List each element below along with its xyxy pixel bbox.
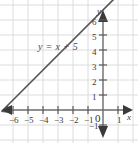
origin-label: 0 [95,113,101,124]
x-tick-label: −2 [69,116,79,125]
graph-figure: y = x + 5 −6 −5 −4 −3 −2 −1 1 6 5 4 3 2 … [0,0,138,143]
y-tick-label: 5 [92,33,97,42]
x-tick-label: −3 [54,116,64,125]
x-axis-label: x [127,113,131,122]
equation-annotation: y = x + 5 [38,42,78,52]
x-tick-label: −6 [9,116,19,125]
y-tick-label: 4 [92,48,97,57]
y-tick-label: 2 [92,78,97,87]
y-tick-label: 3 [92,63,97,72]
y-tick-label: 1 [92,93,97,102]
y-axis-label: y [97,7,101,16]
y-tick-label: 6 [92,18,97,27]
x-tick-label: −4 [39,116,49,125]
data-line-y-equals-x-plus-5 [1,0,137,113]
x-tick-label: −5 [24,116,34,125]
x-tick-label: 1 [117,116,122,125]
x-axis [2,105,133,115]
